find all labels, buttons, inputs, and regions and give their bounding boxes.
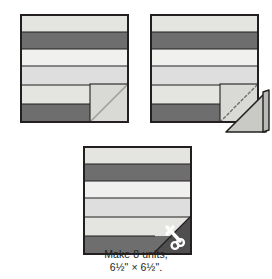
block-1-illustration: [20, 14, 129, 123]
caption-line-2: 6½" × 6½".: [0, 261, 272, 274]
strip-1: [84, 147, 191, 164]
strip-1: [21, 15, 128, 32]
quilting-diagram: Make 8 units, 6½" × 6½".: [0, 0, 272, 279]
flap-edge-strip: [263, 90, 269, 132]
strip-1: [151, 15, 258, 32]
block-2-illustration: [150, 14, 272, 136]
block-before-stitching: [20, 14, 129, 123]
block-3-illustration: [83, 146, 192, 255]
strip-3: [21, 49, 128, 66]
block-trimmed-finished: [83, 146, 192, 255]
strip-4: [21, 66, 128, 85]
strip-2: [151, 32, 258, 49]
figure-caption: Make 8 units, 6½" × 6½".: [0, 248, 272, 273]
caption-line-1: Make 8 units,: [0, 248, 272, 261]
block-stitched-and-folded: [150, 14, 272, 136]
strip-2: [21, 32, 128, 49]
strip-2: [84, 164, 191, 181]
strip-3: [84, 181, 191, 198]
strip-3: [151, 49, 258, 66]
strip-4: [84, 198, 191, 217]
strip-4: [151, 66, 258, 85]
